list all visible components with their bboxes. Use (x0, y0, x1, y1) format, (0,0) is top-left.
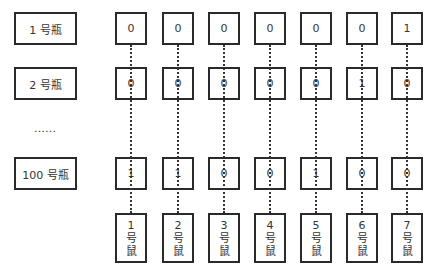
mouse-unit: 号 (173, 232, 184, 245)
mouse-number: 6 (359, 219, 366, 232)
bit-cell: 0 (254, 12, 286, 45)
bit-cell: 0 (346, 12, 378, 45)
dotted-connector (406, 45, 408, 213)
dotted-connector (177, 45, 179, 213)
mouse-number: 1 (128, 219, 135, 232)
mouse-1-box: 1号鼠 (115, 213, 147, 263)
mouse-unit: 号 (219, 232, 230, 245)
bottle-1-box: 1 号瓶 (14, 12, 77, 45)
dotted-connector (315, 45, 317, 213)
mouse-name: 鼠 (265, 245, 276, 258)
bit-cell: 1 (391, 12, 423, 45)
mouse-number: 2 (175, 219, 182, 232)
mouse-name: 鼠 (402, 245, 413, 258)
mouse-number: 3 (221, 219, 228, 232)
bit-cell: 0 (300, 12, 332, 45)
bottle-100-label: 100 号瓶 (22, 166, 69, 182)
mouse-6-box: 6号鼠 (346, 213, 378, 263)
bit-value: 0 (313, 22, 320, 35)
mouse-number: 4 (267, 219, 274, 232)
bit-cell: 0 (115, 12, 147, 45)
mouse-7-box: 7号鼠 (391, 213, 423, 263)
mouse-name: 鼠 (219, 245, 230, 258)
mouse-unit: 号 (265, 232, 276, 245)
bottle-100-box: 100 号瓶 (14, 157, 77, 190)
bit-value: 0 (267, 22, 274, 35)
bit-value: 0 (359, 22, 366, 35)
bit-value: 0 (128, 22, 135, 35)
bottle-1-label: 1 号瓶 (29, 21, 62, 37)
mouse-2-box: 2号鼠 (162, 213, 194, 263)
mouse-number: 5 (313, 219, 320, 232)
bit-value: 0 (175, 22, 182, 35)
mouse-unit: 号 (357, 232, 368, 245)
bit-value: 1 (404, 22, 411, 35)
mouse-4-box: 4号鼠 (254, 213, 286, 263)
bit-cell: 0 (208, 12, 240, 45)
mouse-number: 7 (404, 219, 411, 232)
mouse-name: 鼠 (126, 245, 137, 258)
dotted-connector (223, 45, 225, 213)
mouse-unit: 号 (311, 232, 322, 245)
mouse-3-box: 3号鼠 (208, 213, 240, 263)
bit-cell: 0 (162, 12, 194, 45)
mouse-unit: 号 (126, 232, 137, 245)
bit-value: 0 (221, 22, 228, 35)
mouse-unit: 号 (402, 232, 413, 245)
ellipsis: …… (34, 122, 56, 135)
bottle-2-box: 2 号瓶 (14, 67, 77, 100)
mouse-name: 鼠 (311, 245, 322, 258)
mouse-5-box: 5号鼠 (300, 213, 332, 263)
mouse-name: 鼠 (173, 245, 184, 258)
dotted-connector (130, 45, 132, 213)
dotted-connector (361, 45, 363, 213)
bottle-2-label: 2 号瓶 (29, 76, 62, 92)
dotted-connector (269, 45, 271, 213)
mouse-name: 鼠 (357, 245, 368, 258)
